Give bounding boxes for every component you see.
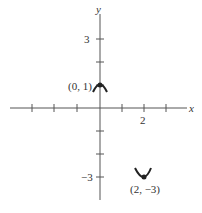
- tick-label-y-3: 3: [84, 33, 90, 45]
- tick-label-y-neg3: −3: [81, 171, 93, 183]
- tick-label-x-2: 2: [140, 114, 146, 126]
- point-label-max: (0, 1): [68, 80, 92, 93]
- graph-canvas: y x 2 3 −3 (0, 1) (2, −3): [0, 0, 202, 213]
- x-axis-label: x: [188, 102, 194, 114]
- point-label-min: (2, −3): [130, 183, 160, 196]
- y-axis-label: y: [95, 3, 101, 15]
- local-max-point: [98, 83, 103, 88]
- local-min-point: [142, 175, 147, 180]
